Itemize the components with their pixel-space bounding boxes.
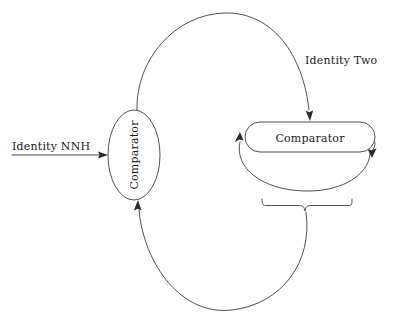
node-right-comparator[interactable]: Comparator	[245, 122, 375, 152]
top-arc-line	[137, 13, 309, 111]
diagram-svg: Comparator Comparator Identity NNH Ident…	[0, 0, 399, 323]
bottom-arrowhead-icon	[134, 200, 142, 211]
self-loop-left-arrowhead-icon	[235, 132, 244, 142]
right-comparator-label: Comparator	[275, 132, 345, 145]
top-arrowhead-icon	[306, 110, 314, 121]
bottom-brace	[262, 199, 352, 211]
top-arc-edge	[137, 13, 313, 121]
diagram-canvas: Comparator Comparator Identity NNH Ident…	[0, 0, 399, 323]
bottom-arc-edge	[134, 200, 307, 310]
bottom-arc-line	[139, 210, 307, 310]
identity-two-label: Identity Two	[305, 54, 378, 67]
left-comparator-label: Comparator	[128, 120, 141, 190]
input-label: Identity NNH	[12, 140, 90, 153]
node-left-comparator[interactable]: Comparator	[108, 110, 160, 200]
brace-path	[262, 199, 352, 211]
